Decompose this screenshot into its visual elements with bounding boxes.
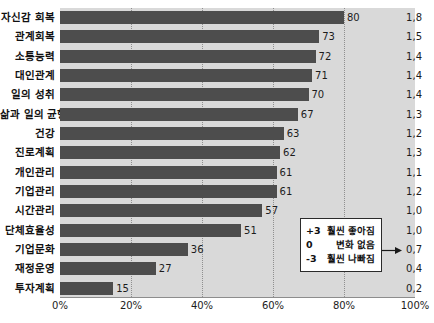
bar — [60, 204, 262, 217]
x-axis-tick-label: 80% — [321, 300, 367, 311]
legend-score: 0 — [306, 238, 313, 252]
category-label: 단체효율성 — [0, 221, 55, 240]
secondary-value-label: 1,0 — [386, 221, 422, 240]
legend-row: -3 훨씬 나빠짐 — [306, 252, 375, 266]
bar-row: 자신감 회복801,8 — [0, 8, 428, 27]
category-label: 투자계획 — [0, 279, 55, 298]
bar-row: 일의 성취701,4 — [0, 85, 428, 104]
bar-value-label: 62 — [283, 143, 296, 162]
secondary-value-label: 1,8 — [386, 8, 422, 27]
bar-row: 삶과 일의 균형671,3 — [0, 105, 428, 124]
bar — [60, 69, 312, 82]
category-label: 관계회복 — [0, 27, 55, 46]
bar-value-label: 63 — [287, 124, 300, 143]
secondary-value-label: 1,2 — [386, 124, 422, 143]
bar-row: 소통능력721,4 — [0, 47, 428, 66]
bar-value-label: 70 — [312, 85, 325, 104]
bar-value-label: 15 — [116, 279, 129, 298]
bar-value-label: 51 — [244, 221, 257, 240]
bar — [60, 224, 241, 237]
legend-score: -3 — [306, 252, 317, 266]
x-axis-tick-label: 100% — [392, 300, 434, 311]
x-axis-tick-label: 60% — [250, 300, 296, 311]
category-label: 재정운영 — [0, 259, 55, 278]
x-axis-tick-label: 20% — [108, 300, 154, 311]
legend-row: +3 훨씬 좋아짐 — [306, 224, 375, 238]
annotation-arrow-icon — [382, 246, 404, 255]
bar — [60, 243, 188, 256]
bar — [60, 127, 284, 140]
category-label: 건강 — [0, 124, 55, 143]
bar-value-label: 72 — [319, 47, 332, 66]
legend-text: 훨씬 좋아짐 — [327, 225, 375, 236]
bar-value-label: 80 — [347, 8, 360, 27]
bar — [60, 166, 277, 179]
bar-value-label: 57 — [265, 201, 278, 220]
bar-row: 진로계획621,3 — [0, 143, 428, 162]
category-label: 기업관리 — [0, 182, 55, 201]
bar-value-label: 71 — [315, 66, 328, 85]
legend-text: 훨씬 나빠짐 — [327, 253, 375, 264]
clipped-title-sliver — [6, 0, 156, 7]
category-label: 시간관리 — [0, 201, 55, 220]
bar — [60, 262, 156, 275]
secondary-value-label: 1,4 — [386, 66, 422, 85]
bar-value-label: 27 — [159, 259, 172, 278]
bar — [60, 88, 309, 101]
legend-text: 변화 없음 — [336, 239, 375, 250]
category-label: 진로계획 — [0, 143, 55, 162]
bar-row: 대인관계711,4 — [0, 66, 428, 85]
bar — [60, 282, 113, 295]
category-label: 기업문화 — [0, 240, 55, 259]
bar — [60, 11, 344, 24]
bar-row: 관계회복731,5 — [0, 27, 428, 46]
bar — [60, 50, 316, 63]
bar-value-label: 67 — [301, 105, 314, 124]
secondary-value-label: 1,4 — [386, 47, 422, 66]
secondary-value-label: 1,3 — [386, 105, 422, 124]
category-label: 대인관계 — [0, 66, 55, 85]
bar — [60, 108, 298, 121]
x-axis-tick-label: 0% — [37, 300, 83, 311]
secondary-value-label: 0,4 — [386, 259, 422, 278]
legend-row: 0 변화 없음 — [306, 238, 375, 252]
category-label: 일의 성취 — [0, 85, 55, 104]
bar — [60, 30, 319, 43]
bar — [60, 185, 277, 198]
legend-score: +3 — [306, 224, 321, 238]
category-label: 삶과 일의 균형 — [0, 105, 55, 124]
secondary-value-label: 1,4 — [386, 85, 422, 104]
category-label: 자신감 회복 — [0, 8, 55, 27]
bar-row: 건강631,2 — [0, 124, 428, 143]
secondary-value-label: 1,0 — [386, 201, 422, 220]
bar-row: 투자계획150,2 — [0, 279, 428, 298]
category-label: 개인관리 — [0, 163, 55, 182]
legend-callout-box: +3 훨씬 좋아짐 0 변화 없음 -3 훨씬 나빠짐 — [300, 218, 382, 272]
secondary-value-label: 1,1 — [386, 163, 422, 182]
secondary-value-label: 1,5 — [386, 27, 422, 46]
secondary-value-label: 0,2 — [386, 279, 422, 298]
bar-value-label: 61 — [280, 163, 293, 182]
category-label: 소통능력 — [0, 47, 55, 66]
bar-row: 기업관리611,2 — [0, 182, 428, 201]
bar-row: 개인관리611,1 — [0, 163, 428, 182]
x-axis: 0%20%40%60%80%100% — [60, 300, 415, 316]
bar-value-label: 61 — [280, 182, 293, 201]
bar — [60, 146, 280, 159]
bar-value-label: 36 — [191, 240, 204, 259]
secondary-value-label: 1,2 — [386, 182, 422, 201]
secondary-value-label: 1,3 — [386, 143, 422, 162]
x-axis-tick-label: 40% — [179, 300, 225, 311]
bar-value-label: 73 — [322, 27, 335, 46]
